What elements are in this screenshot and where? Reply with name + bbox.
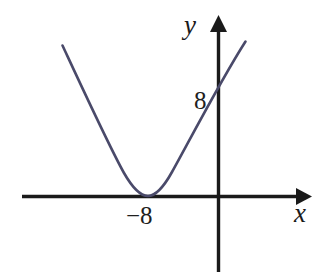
y-intercept-label: 8 (194, 88, 207, 113)
x-axis-label: x (294, 200, 306, 227)
y-axis-arrowhead (210, 15, 227, 32)
y-axis-label: y (184, 12, 196, 39)
graph-figure: y x 8 −8 (0, 0, 333, 276)
coordinate-plane (0, 0, 333, 276)
vertex-x-label: −8 (126, 203, 153, 228)
